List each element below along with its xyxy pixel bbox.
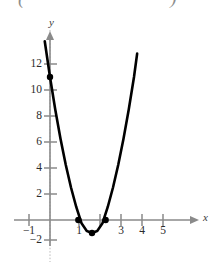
- y-ticklabel-2: 2: [12, 187, 42, 199]
- y-axis-label: y: [49, 16, 54, 28]
- y-axis-arrow: [46, 31, 54, 40]
- parabola-curve: [45, 41, 137, 233]
- marked-point-y-intercept: [47, 74, 53, 80]
- y-ticklabel-6: 6: [12, 135, 42, 147]
- y-ticklabel-4: 4: [12, 161, 42, 173]
- y-ticklabel-10: 10: [8, 83, 42, 95]
- x-axis-label: x: [203, 211, 208, 223]
- marked-point-x-intercept-left: [75, 217, 81, 223]
- parabola-figure: ( = ) y x −1 1: [0, 0, 222, 266]
- marked-point-x-intercept-right: [102, 217, 108, 223]
- y-ticklabel--2: −2: [12, 233, 42, 245]
- y-ticklabel-12: 12: [8, 57, 42, 69]
- y-ticklabel-8: 8: [12, 109, 42, 121]
- x-axis-arrow: [190, 216, 199, 224]
- x-ticklabel-1: 1: [64, 224, 94, 236]
- x-ticklabel-5: 5: [148, 224, 178, 236]
